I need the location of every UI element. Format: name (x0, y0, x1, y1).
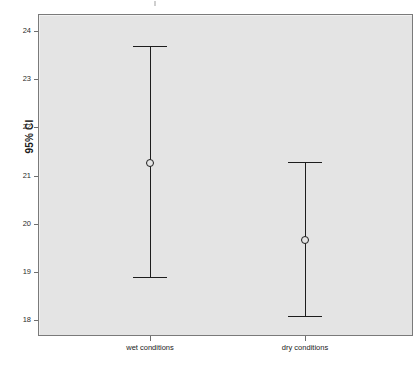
y-axis-tick-label-22: 22 (23, 121, 31, 132)
plot-area (38, 14, 413, 336)
y-axis-tick-label-21: 21 (23, 170, 31, 181)
y-axis-tick-24: 24 (0, 31, 38, 32)
y-axis-tick-mark (34, 127, 38, 128)
y-axis-tick-22: 22 (0, 127, 38, 128)
y-axis-tick-label-19: 19 (23, 266, 31, 277)
y-axis-tick-label-24: 24 (23, 25, 31, 36)
y-axis-title: 95% CI (24, 92, 35, 182)
y-axis-tick-label-18: 18 (23, 314, 31, 325)
y-axis-tick-mark (34, 272, 38, 273)
top-edge-artifact (154, 1, 156, 6)
x-axis-tick-dry (305, 336, 306, 341)
y-axis-tick-mark (34, 176, 38, 177)
y-axis-tick-label-20: 20 (23, 218, 31, 229)
y-axis-tick-label-23: 23 (23, 73, 31, 84)
y-axis-tick-mark (34, 79, 38, 80)
error-bar-chart: 95% CI 24 23 22 21 20 19 18 (0, 0, 420, 366)
mean-marker-dry-conditions (301, 236, 309, 244)
y-axis-tick-mark (34, 224, 38, 225)
y-axis-tick-mark (34, 320, 38, 321)
y-axis-tick-21: 21 (0, 176, 38, 177)
x-axis-tick-wet (150, 336, 151, 341)
error-bar-lower-cap (133, 277, 167, 278)
x-axis-label-dry-conditions: dry conditions (235, 343, 375, 352)
y-axis-tick-19: 19 (0, 272, 38, 273)
mean-marker-wet-conditions (146, 159, 154, 167)
y-axis-tick-23: 23 (0, 79, 38, 80)
plot-area-inner-highlight (39, 15, 412, 335)
error-bar-lower-cap (288, 316, 322, 317)
y-axis-tick-mark (34, 31, 38, 32)
x-axis-label-wet-conditions: wet conditions (80, 343, 220, 352)
y-axis-tick-20: 20 (0, 224, 38, 225)
y-axis-tick-18: 18 (0, 320, 38, 321)
